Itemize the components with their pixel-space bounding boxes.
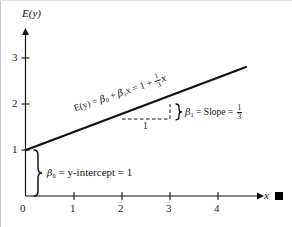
plot-canvas bbox=[0, 0, 292, 227]
intercept-annotation: β0 = y-intercept = 1 bbox=[47, 167, 132, 179]
run-length-label: 1 bbox=[143, 122, 148, 132]
y-tick-label-1: 1 bbox=[12, 144, 18, 155]
y-tick-label-2: 2 bbox=[12, 98, 18, 109]
slope-brace-shape bbox=[176, 104, 182, 120]
x-tick-label-4: 4 bbox=[214, 203, 220, 214]
end-of-proof-square-icon bbox=[275, 192, 283, 200]
intercept-brace-shape bbox=[34, 150, 42, 196]
regression-line-figure: E(y) 1 2 3 0 1 2 3 4 x E(y) = β0 + β1x =… bbox=[0, 0, 292, 227]
y-tick-label-3: 3 bbox=[12, 52, 18, 63]
x-tick-label-2: 2 bbox=[118, 203, 124, 214]
y-axis-label: E(y) bbox=[22, 8, 41, 19]
x-tick-label-1: 1 bbox=[70, 203, 76, 214]
slope-annotation: β1 = Slope = 13 bbox=[185, 104, 243, 120]
x-axis-label: x bbox=[264, 190, 269, 201]
x-tick-label-3: 3 bbox=[166, 203, 172, 214]
slope-fraction: 13 bbox=[237, 104, 243, 120]
slope-fraction-denominator: 3 bbox=[237, 113, 243, 121]
intercept-annotation-text: = y-intercept = 1 bbox=[56, 166, 133, 178]
origin-label: 0 bbox=[20, 203, 26, 214]
slope-annotation-text: = Slope = bbox=[194, 107, 236, 117]
